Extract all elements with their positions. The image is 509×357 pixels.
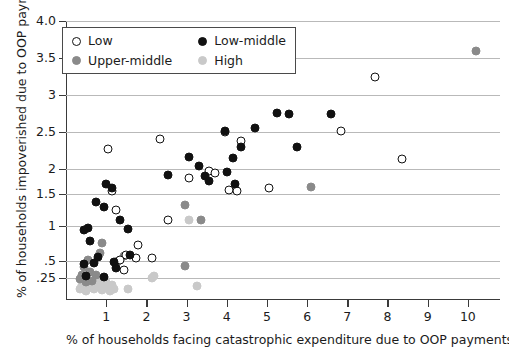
y-tick-mark [59,278,66,279]
gridline [66,169,500,170]
y-tick-label: .25 [36,272,56,285]
data-point-lowmid [220,126,229,135]
data-point-high [192,281,201,290]
legend-label: High [214,55,243,68]
gridline [66,194,500,195]
data-point-lowmid [194,162,203,171]
data-point-lowmid [222,167,231,176]
data-point-lowmid [112,263,121,272]
x-tick-mark [227,300,228,307]
scatter-chart: .25.511.522.533.54.0 12345678910 % of ho… [0,0,509,357]
legend: LowLow-middleUpper-middleHigh [62,27,296,74]
y-tick-label: 1.5 [36,188,56,201]
data-point-low [164,215,173,224]
legend-marker-low-icon [72,37,81,46]
data-point-lowmid [285,110,294,119]
y-tick-label: 3.5 [36,52,56,65]
y-tick-mark [59,226,66,227]
legend-marker-uppermid-icon [72,56,81,65]
y-tick-mark [59,132,66,133]
data-point-high [82,287,91,296]
data-point-low [264,184,273,193]
data-point-low [397,155,406,164]
x-tick-label: 4 [223,311,231,324]
x-tick-mark [387,300,388,307]
x-tick-label: 10 [460,311,476,324]
data-point-lowmid [124,224,133,233]
legend-item-high[interactable]: High [198,55,286,68]
x-tick-mark [468,300,469,307]
data-point-low [120,265,129,274]
data-point-low [371,72,380,81]
data-point-lowmid [236,142,245,151]
data-point-lowmid [126,251,135,260]
data-point-uppermid [471,46,480,55]
y-tick-mark [59,95,66,96]
data-point-lowmid [116,215,125,224]
legend-marker-lowmid-icon [198,37,207,46]
data-point-lowmid [228,153,237,162]
y-tick-mark [59,261,66,262]
data-point-lowmid [230,179,239,188]
data-point-low [210,168,219,177]
data-point-low [156,134,165,143]
x-tick-mark [347,300,348,307]
x-tick-label: 9 [424,311,432,324]
data-point-uppermid [196,215,205,224]
y-tick-label: 3 [48,89,56,102]
x-tick-label: 3 [183,311,191,324]
data-point-lowmid [164,170,173,179]
data-point-uppermid [307,182,316,191]
data-point-low [112,206,121,215]
x-tick-mark [267,300,268,307]
data-point-lowmid [204,176,213,185]
data-point-lowmid [82,271,91,280]
data-point-lowmid [84,224,93,233]
legend-grid: LowLow-middleUpper-middleHigh [72,35,286,67]
y-tick-label: 2.5 [36,126,56,139]
gridline [66,278,500,279]
data-point-uppermid [180,200,189,209]
data-point-high [106,287,115,296]
data-point-uppermid [180,262,189,271]
x-tick-label: 1 [102,311,110,324]
gridline [66,132,500,133]
data-point-lowmid [86,237,95,246]
x-tick-mark [187,300,188,307]
y-tick-label: 2 [48,163,56,176]
legend-item-uppermid[interactable]: Upper-middle [72,55,172,68]
data-point-high [124,284,133,293]
y-tick-mark [59,169,66,170]
x-tick-label: 5 [263,311,271,324]
x-tick-mark [146,300,147,307]
data-point-low [337,127,346,136]
x-tick-label: 7 [343,311,351,324]
gridline [66,95,500,96]
x-tick-label: 2 [142,311,150,324]
data-point-lowmid [108,184,117,193]
y-tick-label: 4.0 [36,15,56,28]
data-point-lowmid [80,259,89,268]
data-point-low [134,240,143,249]
data-point-high [148,274,157,283]
legend-label: Upper-middle [88,55,172,68]
y-tick-label: 1 [48,220,56,233]
data-point-lowmid [327,109,336,118]
x-tick-mark [307,300,308,307]
x-axis-title: % of households facing catastrophic expe… [66,332,500,347]
y-axis-title: % of households impoverished due to OOP … [14,0,29,298]
data-point-lowmid [272,108,281,117]
data-point-lowmid [100,272,109,281]
gridline [66,21,500,22]
data-point-lowmid [100,202,109,211]
y-tick-label: .5 [44,255,56,268]
x-tick-label: 6 [303,311,311,324]
data-point-low [184,174,193,183]
legend-label: Low [88,35,113,48]
x-axis-line [66,299,500,300]
x-tick-mark [428,300,429,307]
legend-item-lowmid[interactable]: Low-middle [198,35,286,48]
data-point-low [104,145,113,154]
legend-item-low[interactable]: Low [72,35,172,48]
data-point-uppermid [98,238,107,247]
